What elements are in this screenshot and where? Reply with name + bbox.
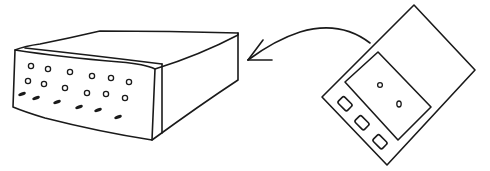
box-device-icon bbox=[13, 31, 238, 140]
arrow-left-icon bbox=[248, 28, 370, 60]
handheld-device-icon bbox=[322, 5, 475, 165]
sketch-canvas bbox=[0, 0, 490, 171]
illustration: Hand-drawn sketch of a handheld remote d… bbox=[0, 0, 490, 171]
